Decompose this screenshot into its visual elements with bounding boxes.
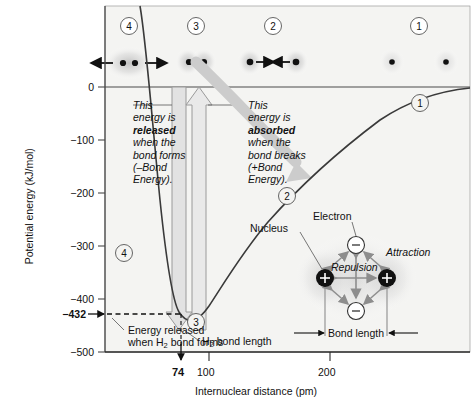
callout-absorbed-line7: Energy).	[248, 173, 306, 185]
svg-text:4: 4	[121, 248, 127, 259]
y-tick-minus500: −500	[54, 346, 94, 358]
electron-bottom	[348, 303, 365, 320]
stage-badge-2: 2	[265, 18, 282, 35]
inset-attraction-label: Attraction	[386, 246, 430, 258]
callout-released-line3: released	[133, 124, 186, 136]
callout-released-line7: Energy).	[133, 173, 186, 185]
inset-repulsion-label: Repulsion	[331, 261, 378, 273]
y-tick-0: 0	[68, 81, 94, 93]
callout-released: This energy is released when the bond fo…	[133, 99, 186, 186]
callout-released-line5: bond forms	[133, 149, 186, 161]
callout-absorbed-line1: This	[248, 99, 306, 111]
callout-absorbed-line6: (+Bond	[248, 161, 306, 173]
svg-text:1: 1	[417, 98, 423, 109]
x-tick-200: 200	[318, 366, 336, 378]
y-tick-minus200: −200	[54, 187, 94, 199]
stage-badge-3: 3	[188, 18, 205, 35]
curve-badge-2: 2	[279, 188, 296, 205]
electron-top	[348, 237, 365, 254]
x-axis-title: Internuclear distance (pm)	[195, 385, 317, 397]
h2-bond-length-annotation: H2 bond length	[202, 335, 272, 350]
svg-text:1: 1	[416, 21, 422, 32]
curve-badge-4: 4	[116, 245, 133, 262]
x-tick-74: 74	[172, 366, 184, 379]
bond-energy-label: −432	[44, 308, 86, 320]
callout-released-line2: energy is	[133, 111, 186, 123]
inset-nucleus-label: Nucleus	[250, 222, 288, 234]
callout-released-line6: (–Bond	[133, 161, 186, 173]
curve-badge-1: 1	[412, 95, 429, 112]
y-axis-title-text: Potential energy (kJ/mol)	[23, 148, 35, 264]
x-tick-100: 100	[197, 366, 215, 378]
nucleus-right	[378, 269, 396, 287]
callout-released-line4: when the	[133, 136, 186, 148]
y-tick-minus300: −300	[54, 240, 94, 252]
y-tick-minus400: −400	[54, 293, 94, 305]
y-axis-title: Potential energy (kJ/mol)	[23, 121, 35, 291]
inset-bond-length-label: Bond length	[328, 327, 384, 339]
callout-absorbed-line5: bond breaks	[248, 149, 306, 161]
svg-text:2: 2	[284, 191, 290, 202]
callout-absorbed: This energy is absorbed when the bond br…	[248, 99, 306, 186]
svg-text:4: 4	[126, 21, 132, 32]
figure-root: 4 3 2 1	[0, 0, 475, 404]
y-tick-minus100: −100	[54, 134, 94, 146]
callout-absorbed-line3: absorbed	[248, 124, 306, 136]
callout-absorbed-line2: energy is	[248, 111, 306, 123]
x-axis-ticks	[209, 352, 330, 361]
stage-badge-1: 1	[411, 18, 428, 35]
stage-badge-4: 4	[121, 18, 138, 35]
y-axis-ticks	[98, 87, 105, 352]
callout-absorbed-line4: when the	[248, 136, 306, 148]
svg-text:2: 2	[270, 21, 276, 32]
inset-electron-label: Electron	[313, 210, 352, 222]
svg-text:3: 3	[193, 21, 199, 32]
callout-released-line1: This	[133, 99, 186, 111]
